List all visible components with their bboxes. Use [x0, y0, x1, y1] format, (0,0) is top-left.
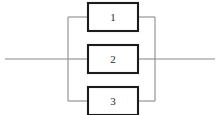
block-2-label: 2: [110, 53, 116, 65]
block-1-label: 1: [110, 11, 116, 23]
parallel-circuit-diagram: 1 2 3: [0, 0, 219, 115]
circuit-svg-canvas: 1 2 3: [0, 0, 219, 115]
block-3-label: 3: [110, 95, 116, 107]
